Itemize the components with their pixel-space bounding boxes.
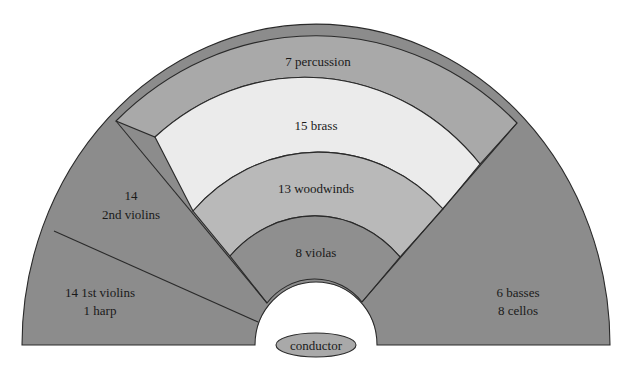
brass-label: 15 brass [295,118,338,133]
second-violins-label: 2nd violins [102,207,160,222]
harp-label: 1 harp [84,303,117,318]
cellos-label: 8 cellos [498,303,538,318]
violas-label: 8 violas [296,245,337,260]
second-violins-count: 14 [125,188,139,203]
basses-label: 6 basses [497,285,540,300]
conductor-label: conductor [290,338,343,353]
first-violins-label: 14 1st violins [65,285,135,300]
woodwinds-label: 13 woodwinds [278,181,354,196]
percussion-label: 7 percussion [285,54,351,69]
orchestra-seating-diagram: 7 percussion 15 brass 13 woodwinds 8 vio… [0,0,637,376]
